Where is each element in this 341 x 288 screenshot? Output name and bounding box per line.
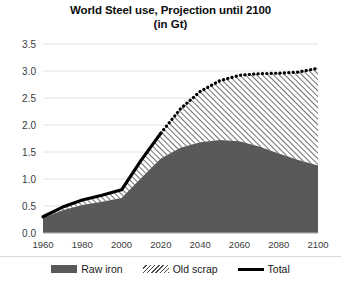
legend-swatch-icon-total	[238, 268, 264, 271]
legend-label-raw-iron: Raw iron	[81, 263, 122, 275]
legend-swatch-icon-old-scrap	[143, 265, 169, 273]
legend-item-raw-iron[interactable]: Raw iron	[51, 263, 122, 275]
x-axis-tick-label: 1960	[32, 239, 53, 250]
y-axis-tick-label: 3.5	[22, 39, 36, 50]
legend-item-total[interactable]: Total	[238, 263, 290, 275]
y-axis-tick-label: 1.5	[22, 147, 36, 158]
x-axis-tick-label: 2000	[111, 239, 132, 250]
x-axis-tick-labels: 19601980200020202040206020802100	[32, 239, 328, 250]
chart-legend: Raw iron Old scrap Total	[0, 258, 341, 288]
x-axis-tick-label: 2020	[150, 239, 171, 250]
chart-plot-area: 0.00.51.01.52.02.53.03.5 196019802000202…	[0, 0, 341, 258]
y-axis-tick-label: 0.0	[22, 228, 36, 239]
x-axis-tick-label: 2040	[190, 239, 211, 250]
legend-label-total: Total	[268, 263, 290, 275]
y-axis-tick-label: 3.0	[22, 66, 36, 77]
chart-container: World Steel use, Projection until 2100 (…	[0, 0, 341, 288]
area-raw-iron	[43, 140, 318, 233]
y-axis-tick-label: 1.0	[22, 174, 36, 185]
legend-divider	[0, 256, 341, 257]
legend-label-old-scrap: Old scrap	[173, 263, 218, 275]
x-axis-tick-label: 2100	[307, 239, 328, 250]
y-axis-tick-label: 0.5	[22, 201, 36, 212]
x-axis-tick-label: 1980	[72, 239, 93, 250]
x-axis-tick-label: 2080	[268, 239, 289, 250]
y-axis-tick-label: 2.5	[22, 93, 36, 104]
legend-swatch-icon-raw-iron	[51, 265, 77, 273]
y-axis-tick-label: 2.0	[22, 120, 36, 131]
legend-item-old-scrap[interactable]: Old scrap	[143, 263, 218, 275]
y-axis-tick-labels: 0.00.51.01.52.02.53.03.5	[22, 39, 36, 239]
x-axis-tick-label: 2060	[229, 239, 250, 250]
